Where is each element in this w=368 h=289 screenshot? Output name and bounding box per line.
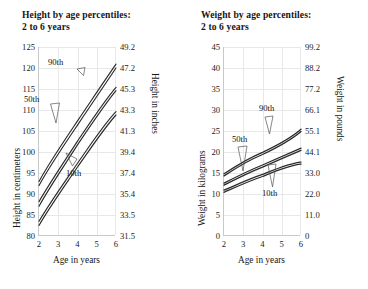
xtick-3: 3 <box>56 240 60 249</box>
height-yaxis-left-title: Height in centimeters <box>12 148 22 228</box>
leader-90th <box>77 68 85 76</box>
ytick-right-77-2: 77.2 <box>305 85 320 94</box>
xtick-6: 6 <box>114 240 118 249</box>
ytick-right-35-4: 35.4 <box>120 190 135 199</box>
weight-xaxis-title: Age in years <box>238 255 285 265</box>
annotation-90th-height: 90th <box>48 58 63 67</box>
curve-50th-b <box>39 91 116 207</box>
curve-50th-b <box>224 150 301 185</box>
ytick-left-105: 105 <box>6 127 35 136</box>
weight-yaxis-left-title: Weight in kilograms <box>197 150 207 226</box>
weight-title-line1: Weight by age percentiles: <box>201 9 311 20</box>
ytick-right-88-2: 88.2 <box>305 64 320 73</box>
annotation-50th-weight: 50th <box>232 135 247 144</box>
leader-50th <box>51 103 60 123</box>
height-percentile-curves <box>39 47 116 236</box>
ytick-left-0: 0 <box>192 232 220 241</box>
height-xaxis-title: Age in years <box>53 255 100 265</box>
ytick-left-120: 120 <box>6 64 35 73</box>
weight-plot-area: 90th 50th 10th <box>223 47 300 236</box>
weight-chart-panel: Weight by age percentiles:2 to 6 years <box>184 0 368 289</box>
ytick-right-31-5: 31.5 <box>120 232 135 241</box>
ytick-right-41-3: 41.3 <box>120 127 135 136</box>
ytick-left-25: 25 <box>192 127 220 136</box>
xtick-2: 2 <box>37 240 41 249</box>
ytick-right-37-4: 37.4 <box>120 169 135 178</box>
xtick-4: 4 <box>75 240 79 249</box>
height-title-line2: 2 to 6 years <box>22 21 70 32</box>
xtick-2: 2 <box>222 240 226 249</box>
ytick-right-0: 0 <box>305 232 309 241</box>
height-title-line1: Height by age percentiles: <box>22 9 131 20</box>
leader-10th <box>268 164 276 187</box>
ytick-right-39-4: 39.4 <box>120 148 135 157</box>
ytick-left-40: 40 <box>192 64 220 73</box>
xtick-4: 4 <box>260 240 264 249</box>
height-yaxis-right-title: Height in inches <box>150 73 160 134</box>
ytick-left-45: 45 <box>192 43 220 52</box>
ytick-right-45-3: 45.3 <box>120 85 135 94</box>
ytick-right-43-3: 43.3 <box>120 106 135 115</box>
xtick-3: 3 <box>241 240 245 249</box>
weight-title-line2: 2 to 6 years <box>201 21 249 32</box>
height-chart-panel: Height by age percentiles:2 to 6 years <box>0 0 184 289</box>
ytick-right-22-0: 22.0 <box>305 190 320 199</box>
ytick-right-33-5: 33.5 <box>120 211 135 220</box>
xtick-6: 6 <box>299 240 303 249</box>
leader-90th <box>265 116 273 134</box>
curve-50th-a <box>224 148 301 183</box>
annotation-10th-weight: 10th <box>262 189 277 198</box>
ytick-left-30: 30 <box>192 106 220 115</box>
ytick-right-66-1: 66.1 <box>305 106 320 115</box>
ytick-right-33-0: 33.0 <box>305 169 320 178</box>
ytick-right-99-2: 99.2 <box>305 43 320 52</box>
ytick-right-49-2: 49.2 <box>120 43 135 52</box>
ytick-right-44-1: 44.1 <box>305 148 320 157</box>
ytick-left-110: 110 <box>6 106 35 115</box>
ytick-left-80: 80 <box>6 232 35 241</box>
ytick-right-11-0: 11.0 <box>305 211 320 220</box>
height-plot-area: 90th 50th 10th <box>38 47 115 236</box>
xtick-5: 5 <box>280 240 284 249</box>
annotation-90th-weight: 90th <box>259 104 274 113</box>
ytick-left-35: 35 <box>192 85 220 94</box>
ytick-right-47-2: 47.2 <box>120 64 135 73</box>
annotation-50th-height: 50th <box>24 95 39 104</box>
ytick-right-55-1: 55.1 <box>305 127 320 136</box>
ytick-left-115: 115 <box>6 85 35 94</box>
ytick-left-125: 125 <box>6 43 35 52</box>
height-chart-title: Height by age percentiles:2 to 6 years <box>22 9 131 32</box>
weight-yaxis-right-title: Weight in pounds <box>335 76 345 141</box>
annotation-10th-height: 10th <box>66 169 81 178</box>
growth-charts-figure: Height by age percentiles:2 to 6 years <box>0 0 368 289</box>
xtick-5: 5 <box>95 240 99 249</box>
weight-chart-title: Weight by age percentiles:2 to 6 years <box>201 9 311 32</box>
leader-50th <box>238 146 247 171</box>
